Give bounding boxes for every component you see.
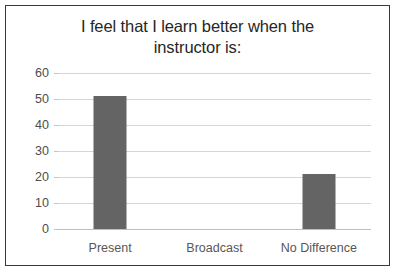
chart-title-line-2: instructor is: bbox=[6, 37, 389, 58]
y-tick-label-0: 0 bbox=[42, 222, 49, 236]
y-tickmark-0 bbox=[54, 229, 58, 230]
y-tick-label-20: 20 bbox=[35, 170, 49, 184]
x-category-label-1: Present bbox=[89, 241, 132, 255]
plot-area: 0102030405060 PresentBroadcastNo Differe… bbox=[58, 73, 371, 229]
y-tick-label-10: 10 bbox=[35, 196, 49, 210]
bar-present[interactable] bbox=[94, 96, 127, 229]
y-tick-label-40: 40 bbox=[35, 118, 49, 132]
chart-title: I feel that I learn better when the inst… bbox=[6, 16, 389, 58]
x-category-label-3: No Difference bbox=[281, 241, 357, 255]
y-tick-label-50: 50 bbox=[35, 92, 49, 106]
y-tick-label-30: 30 bbox=[35, 144, 49, 158]
bar-slot-2: Broadcast bbox=[162, 73, 266, 229]
gridline-0 bbox=[58, 229, 371, 230]
chart-title-line-1: I feel that I learn better when the bbox=[6, 16, 389, 37]
y-tick-label-60: 60 bbox=[35, 66, 49, 80]
x-category-label-2: Broadcast bbox=[186, 241, 242, 255]
bar-series: PresentBroadcastNo Difference bbox=[58, 73, 371, 229]
bar-slot-1: Present bbox=[58, 73, 162, 229]
chart-frame: I feel that I learn better when the inst… bbox=[5, 5, 390, 266]
bar-no-difference[interactable] bbox=[302, 174, 335, 229]
bar-slot-3: No Difference bbox=[267, 73, 371, 229]
